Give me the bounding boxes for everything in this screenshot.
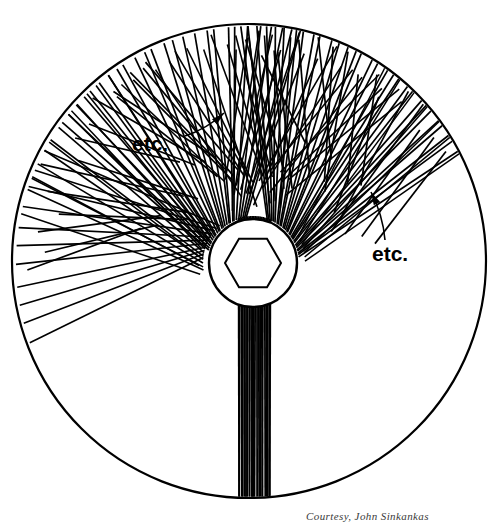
credit-caption: Courtesy, John Sinkankas [306, 510, 429, 522]
etc-label-upper-left: etc. [132, 133, 168, 154]
etc-label-right: etc. [372, 243, 408, 264]
lap-diagram-svg [0, 0, 504, 527]
scratch-line [78, 161, 198, 199]
scratch-line [24, 254, 204, 324]
scratch-line [20, 250, 205, 305]
scratch-line [30, 257, 203, 342]
scratch-line [143, 68, 234, 176]
faceting-lap-figure: etc. etc. Courtesy, John Sinkankas [0, 0, 504, 527]
